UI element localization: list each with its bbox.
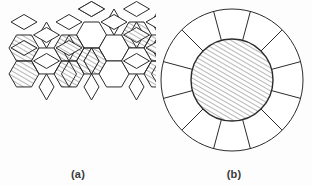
- caption-a: (a): [0, 168, 156, 180]
- tiling-diagram: [0, 0, 156, 186]
- panel-b-radial: (b): [156, 0, 312, 186]
- tile-rhombus: [34, 27, 60, 42]
- tile-rhombus: [101, 15, 127, 30]
- tile-rhombus: [39, 74, 54, 100]
- tile-rhombus: [84, 74, 99, 100]
- tile-rhombus: [129, 74, 144, 100]
- tiling-cells: [9, 2, 156, 100]
- radial-diagram: [156, 0, 312, 186]
- caption-b: (b): [156, 168, 312, 180]
- figure-container: (a) (b): [0, 0, 312, 186]
- tile-rhombus: [56, 15, 82, 30]
- radial-segments: [161, 9, 303, 151]
- tile-rhombus: [79, 2, 105, 17]
- inner-hatched-disc: [191, 39, 273, 121]
- tile-rhombus: [11, 15, 37, 30]
- panel-a-tiling: (a): [0, 0, 156, 186]
- tile-rhombus: [124, 2, 150, 17]
